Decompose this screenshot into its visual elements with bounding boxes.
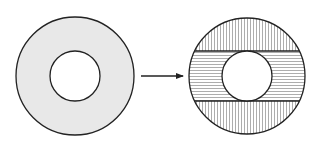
diagram-canvas <box>0 0 323 148</box>
right-ring-hole <box>222 51 272 101</box>
ring-transformation-diagram <box>0 0 323 148</box>
right-ring <box>189 18 305 134</box>
left-ring <box>16 17 134 135</box>
left-ring-hole <box>50 51 100 101</box>
